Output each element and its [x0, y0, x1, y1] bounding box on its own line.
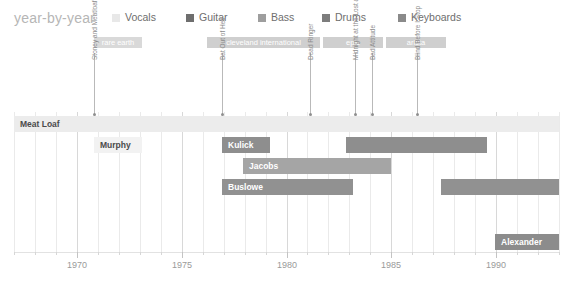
- legend-swatch-icon: [186, 14, 194, 22]
- gridline: [35, 112, 36, 252]
- era-band[interactable]: rare earth: [94, 37, 142, 48]
- timeline-bar[interactable]: Murphy: [94, 137, 142, 153]
- axis-tick-minor: [412, 252, 413, 255]
- axis-tick-label: 1990: [486, 260, 506, 270]
- timeline-bar-label: Buslowe: [222, 179, 263, 195]
- gridline: [14, 112, 15, 252]
- timeline-bar-label: Kulick: [222, 137, 254, 153]
- year-by-year-timeline-chart: year-by-year VocalsGuitarBassDrumsKeyboa…: [0, 0, 573, 287]
- timeline-bar[interactable]: Meat Loaf: [14, 116, 559, 132]
- album-label: Dead Ringer: [307, 24, 314, 61]
- album-label: Bat Out of Hell: [219, 18, 226, 60]
- timeline-bar-label: Alexander: [495, 234, 542, 250]
- legend-label: Bass: [271, 11, 294, 23]
- timeline-bar[interactable]: Kulick: [222, 137, 270, 153]
- gridline: [56, 112, 57, 252]
- axis-tick-minor: [307, 252, 308, 255]
- timeline-bar[interactable]: [441, 179, 559, 195]
- axis-tick-label: 1985: [381, 260, 401, 270]
- axis-tick-label: 1975: [172, 260, 192, 270]
- timeline-bar[interactable]: Buslowe: [222, 179, 353, 195]
- timeline-bar[interactable]: Jacobs: [243, 158, 391, 174]
- album-marker-line: [372, 53, 373, 115]
- gridline: [77, 112, 78, 252]
- axis-tick-minor: [538, 252, 539, 255]
- album-label: Blind Before I Stop: [414, 6, 421, 60]
- axis-tick-label: 1970: [67, 260, 87, 270]
- axis-tick-minor: [349, 252, 350, 255]
- axis-tick-minor: [56, 252, 57, 255]
- axis-tick-minor: [245, 252, 246, 255]
- album-marker-line: [310, 53, 311, 115]
- axis-tick-minor: [559, 252, 560, 255]
- axis-tick-minor: [35, 252, 36, 255]
- axis-tick-minor: [119, 252, 120, 255]
- album-label: Bad Attitude: [369, 25, 376, 60]
- album-marker-line: [417, 53, 418, 115]
- axis-tick-minor: [475, 252, 476, 255]
- legend-item-vocals[interactable]: Vocals: [112, 11, 156, 25]
- timeline-bar[interactable]: [355, 179, 440, 195]
- gridline: [559, 112, 560, 252]
- legend-item-keyboards[interactable]: Keyboards: [398, 11, 461, 25]
- axis-tick-minor: [517, 252, 518, 255]
- legend-item-bass[interactable]: Bass: [258, 11, 294, 25]
- album-label: Stoney and Meatloaf: [91, 0, 98, 60]
- axis-tick-minor: [328, 252, 329, 255]
- timeline-bar-label: Murphy: [94, 137, 131, 153]
- timeline-bar[interactable]: [272, 137, 344, 153]
- axis-tick-label: 1980: [277, 260, 297, 270]
- timeline-bar-label: Jacobs: [243, 158, 278, 174]
- axis-tick-major: [391, 252, 392, 258]
- timeline-bar[interactable]: Alexander: [495, 234, 559, 250]
- legend-label: Vocals: [125, 11, 156, 23]
- gridline: [98, 112, 99, 252]
- axis-tick-minor: [224, 252, 225, 255]
- gridline: [119, 112, 120, 252]
- axis-tick-minor: [266, 252, 267, 255]
- axis-tick-minor: [454, 252, 455, 255]
- gridline: [140, 112, 141, 252]
- timeline-bar-label: Meat Loaf: [14, 116, 60, 132]
- gridline: [182, 112, 183, 252]
- album-label: Midnight at the Lost and Found: [352, 0, 359, 60]
- legend-swatch-icon: [398, 14, 406, 22]
- axis-tick-major: [182, 252, 183, 258]
- axis-tick-minor: [203, 252, 204, 255]
- axis-tick-major: [287, 252, 288, 258]
- album-marker-line: [355, 53, 356, 115]
- axis-tick-minor: [140, 252, 141, 255]
- legend-item-drums[interactable]: Drums: [322, 11, 366, 25]
- chart-header: year-by-year VocalsGuitarBassDrumsKeyboa…: [0, 0, 573, 30]
- axis-tick-minor: [433, 252, 434, 255]
- legend-swatch-icon: [258, 14, 266, 22]
- album-marker-line: [94, 53, 95, 115]
- x-axis: 19701975198019851990: [0, 252, 573, 287]
- axis-tick-minor: [370, 252, 371, 255]
- legend-swatch-icon: [112, 14, 120, 22]
- axis-tick-major: [77, 252, 78, 258]
- gridline: [203, 112, 204, 252]
- axis-tick-minor: [98, 252, 99, 255]
- axis-tick-major: [496, 252, 497, 258]
- legend-label: Drums: [335, 11, 366, 23]
- page-title: year-by-year: [14, 10, 95, 26]
- gridline: [161, 112, 162, 252]
- album-marker-line: [222, 53, 223, 115]
- axis-tick-minor: [14, 252, 15, 255]
- legend-swatch-icon: [322, 14, 330, 22]
- timeline-bar[interactable]: [346, 137, 487, 153]
- axis-tick-minor: [161, 252, 162, 255]
